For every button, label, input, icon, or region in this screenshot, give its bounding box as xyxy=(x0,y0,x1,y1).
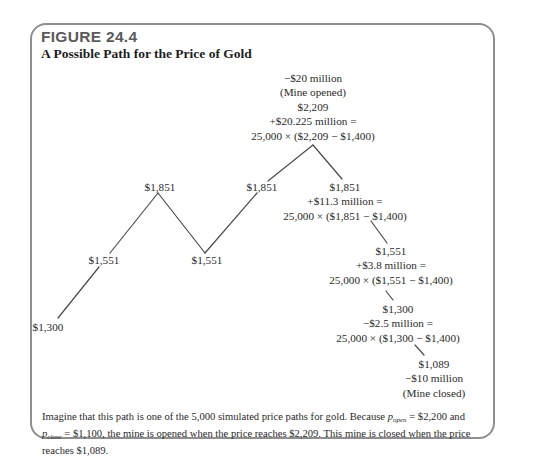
node-block-1851: $1,851 +$11.3 million = 25,000 × ($1,851… xyxy=(283,180,407,223)
node-2209-profit: +$20.225 million = xyxy=(251,114,375,128)
p-open-variable: popen xyxy=(388,411,407,422)
node-2209-formula: 25,000 × ($2,209 − $1,400) xyxy=(251,129,375,143)
node-1851-formula: 25,000 × ($1,851 − $1,400) xyxy=(283,209,407,223)
segment-6 xyxy=(386,291,393,300)
node-label-1851-a: $1,851 xyxy=(145,180,176,194)
segment-2 xyxy=(158,193,205,253)
segment-5 xyxy=(371,221,387,243)
p-open-subscript: open xyxy=(393,416,407,424)
node-1551-profit: +$3.8 million = xyxy=(329,258,453,272)
node-block-2209: −$20 million (Mine opened) $2,209 +$20.2… xyxy=(251,71,375,143)
node-1300-price: $1,300 xyxy=(336,302,460,316)
node-2209-status: (Mine opened) xyxy=(251,85,375,99)
node-label-1551-a: $1,551 xyxy=(89,253,120,267)
node-block-1300: $1,300 −$2.5 million = 25,000 × ($1,300 … xyxy=(336,302,460,345)
node-1089-status: (Mine closed) xyxy=(403,386,465,400)
node-1089-cost: −$10 million xyxy=(403,371,465,385)
node-1851-price: $1,851 xyxy=(283,180,407,194)
node-1300-formula: 25,000 × ($1,300 − $1,400) xyxy=(336,331,460,345)
node-1551-price: $1,551 xyxy=(329,244,453,258)
node-label-1551-b: $1,551 xyxy=(192,253,223,267)
caption-text-3: = $1,100, the mine is opened when the pr… xyxy=(42,428,471,456)
segment-4 xyxy=(313,145,342,179)
node-2209-price: $2,209 xyxy=(251,100,375,114)
p-close-subscript: close xyxy=(47,433,61,441)
node-label-1851-b: $1,851 xyxy=(247,180,278,194)
segment-7 xyxy=(415,345,424,355)
segment-3a xyxy=(205,193,257,253)
segment-1b xyxy=(110,193,158,253)
node-1851-profit: +$11.3 million = xyxy=(283,194,407,208)
node-block-1551: $1,551 +$3.8 million = 25,000 × ($1,551 … xyxy=(329,244,453,287)
node-block-1089: $1,089 −$10 million (Mine closed) xyxy=(403,357,465,400)
p-close-variable: pclose xyxy=(42,428,62,439)
caption-text-2: = $2,200 and xyxy=(407,411,465,422)
node-2209-cost: −$20 million xyxy=(251,71,375,85)
caption-text-1: Imagine that this path is one of the 5,0… xyxy=(42,411,388,422)
node-label-1300: $1,300 xyxy=(33,320,64,334)
node-1089-price: $1,089 xyxy=(403,357,465,371)
figure-caption: Imagine that this path is one of the 5,0… xyxy=(42,410,482,458)
node-1300-profit: −$2.5 million = xyxy=(336,316,460,330)
segment-1a xyxy=(58,267,99,318)
segment-3b xyxy=(268,145,313,181)
node-1551-formula: 25,000 × ($1,551 − $1,400) xyxy=(329,273,453,287)
